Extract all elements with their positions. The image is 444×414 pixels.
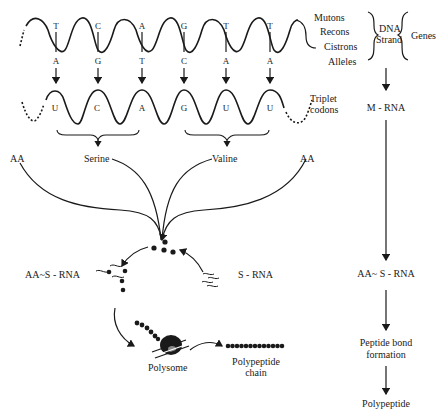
srna-squiggles xyxy=(202,273,219,286)
chain-label: chain xyxy=(226,367,286,378)
dna-label: DNA xyxy=(379,23,401,34)
dna-base-bottom: A xyxy=(265,56,275,66)
dna-base-bottom: G xyxy=(93,56,103,66)
dna-base-bottom: T xyxy=(137,56,147,66)
converging-curves xyxy=(20,159,306,240)
codons-label: codons xyxy=(310,104,338,115)
polysome-label: Polysome xyxy=(148,362,187,373)
amino-acid-serine: Serine xyxy=(84,153,110,164)
dna-base-bottom: C xyxy=(179,56,189,66)
dna-strand-wave xyxy=(20,18,298,52)
polysome-shape xyxy=(135,321,189,358)
dna-base-top: T xyxy=(221,21,231,31)
transcription-arrows xyxy=(56,32,270,83)
dna-base-top: T xyxy=(265,21,275,31)
mrna-flow-label: M - RNA xyxy=(346,102,426,113)
polypeptide-chain-beads xyxy=(226,344,285,349)
dna-base-top: A xyxy=(137,21,147,31)
mrna-base: U xyxy=(50,103,60,113)
amino-acid-left: AA xyxy=(10,153,24,164)
dna-base-bottom: A xyxy=(51,56,61,66)
mrna-base: G xyxy=(179,103,189,113)
mrna-base: A xyxy=(137,103,147,113)
amino-acid-right: AA xyxy=(300,153,314,164)
dna-base-top: G xyxy=(179,21,189,31)
codon-braces xyxy=(57,130,269,146)
aa-srna-label: AA~S - RNA xyxy=(25,269,80,280)
gene-unit-recons: Recons xyxy=(320,26,349,37)
formation-label: formation xyxy=(346,349,426,360)
polypeptide-chain-label: Polypeptide xyxy=(226,356,286,367)
triplet-label: Triplet xyxy=(310,93,337,104)
dna-base-top: T xyxy=(51,21,61,31)
dna-base-bottom: A xyxy=(221,56,231,66)
gene-unit-mutons: Mutons xyxy=(314,12,345,23)
gene-unit-alleles: Alleles xyxy=(328,56,356,67)
translation-cycle xyxy=(114,247,222,350)
strand-label: Strand xyxy=(376,34,402,45)
polypeptide-flow-label: Polypeptide xyxy=(346,398,426,409)
ribosome-dots xyxy=(151,239,175,254)
mrna-base: U xyxy=(265,103,275,113)
genes-label: Genes xyxy=(411,30,436,41)
srna-label: S - RNA xyxy=(238,269,273,280)
dna-base-top: C xyxy=(93,21,103,31)
peptide-bond-label: Peptide bond xyxy=(346,337,426,348)
aa-srna-flow-label: AA~ S - RNA xyxy=(346,268,426,279)
gene-unit-cistrons: Cistrons xyxy=(324,41,357,52)
mrna-base: U xyxy=(221,103,231,113)
amino-acid-valine: Valine xyxy=(212,153,238,164)
aa-srna-dots xyxy=(107,269,128,293)
mrna-base: C xyxy=(92,103,102,113)
